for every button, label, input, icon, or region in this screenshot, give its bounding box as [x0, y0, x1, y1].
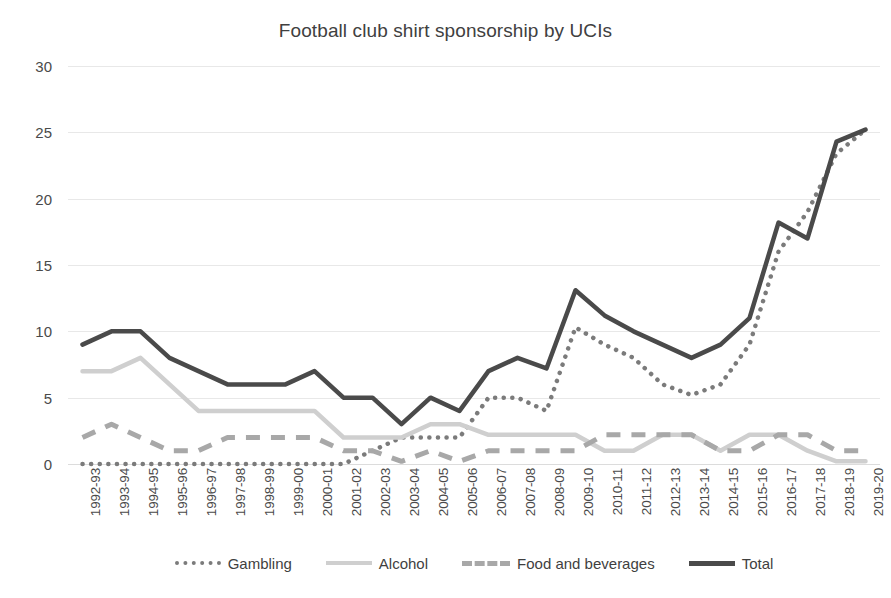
x-axis-tick-label: 2008-09 — [552, 468, 567, 516]
y-axis-tick-label: 30 — [35, 58, 52, 75]
chart-title: Football club shirt sponsorship by UCIs — [0, 20, 891, 42]
x-axis-tick-label: 2017-18 — [813, 468, 828, 516]
y-axis-tick-label: 10 — [35, 323, 52, 340]
legend-label: Total — [742, 555, 774, 572]
x-axis-tick-label: 2015-16 — [755, 468, 770, 516]
legend-label: Gambling — [228, 555, 292, 572]
x-axis-tick-label: 2014-15 — [726, 468, 741, 516]
x-axis-tick-label: 1995-96 — [175, 468, 190, 516]
x-axis-tick-label: 2000-01 — [320, 468, 335, 516]
chart-legend: GamblingAlcoholFood and beveragesTotal — [68, 548, 880, 578]
x-axis-tick-label: 2013-14 — [697, 468, 712, 516]
legend-swatch-icon — [175, 561, 221, 565]
x-axis-tick-label: 1992-93 — [88, 468, 103, 516]
series-line-total — [83, 130, 866, 425]
y-axis-tick-label: 25 — [35, 124, 52, 141]
x-axis-tick-label: 2006-07 — [494, 468, 509, 516]
x-axis-tick-label: 1997-98 — [233, 468, 248, 516]
legend-item-total[interactable]: Total — [689, 555, 774, 572]
x-axis-tick-label: 2018-19 — [842, 468, 857, 516]
x-axis-tick-label: 1999-00 — [291, 468, 306, 516]
series-line-gambling — [83, 130, 866, 464]
y-axis-tick-label: 5 — [44, 389, 52, 406]
legend-item-gambling[interactable]: Gambling — [175, 555, 292, 572]
y-axis-tick-label: 20 — [35, 190, 52, 207]
x-axis-tick-label: 2016-17 — [784, 468, 799, 516]
legend-label: Food and beverages — [517, 555, 655, 572]
x-axis-tick-label: 2010-11 — [610, 468, 625, 515]
data-series-layer — [68, 66, 880, 464]
x-axis-tick-label: 2009-10 — [581, 468, 596, 516]
x-axis-tick-label: 2007-08 — [523, 468, 538, 516]
x-axis-tick-label: 2004-05 — [436, 468, 451, 516]
gridline — [68, 464, 880, 465]
y-axis: 051015202530 — [0, 66, 60, 464]
legend-item-food-and-beverages[interactable]: Food and beverages — [462, 555, 655, 572]
y-axis-tick-label: 15 — [35, 257, 52, 274]
x-axis-tick-label: 2012-13 — [668, 468, 683, 516]
legend-swatch-icon — [462, 561, 510, 566]
x-axis-tick-label: 2003-04 — [407, 468, 422, 516]
x-axis-tick-label: 2019-20 — [871, 468, 886, 516]
x-axis: 1992-931993-941994-951995-961996-971997-… — [68, 468, 880, 542]
chart-container: Football club shirt sponsorship by UCIs … — [0, 0, 891, 598]
x-axis-tick-label: 1996-97 — [204, 468, 219, 516]
x-axis-tick-label: 1993-94 — [117, 468, 132, 516]
y-axis-tick-label: 0 — [44, 456, 52, 473]
x-axis-tick-label: 1994-95 — [146, 468, 161, 516]
plot-area — [68, 66, 880, 464]
x-axis-tick-label: 2011-12 — [639, 468, 654, 515]
legend-item-alcohol[interactable]: Alcohol — [326, 555, 428, 572]
legend-swatch-icon — [326, 561, 372, 565]
x-axis-tick-label: 2002-03 — [378, 468, 393, 516]
x-axis-tick-label: 1998-99 — [262, 468, 277, 516]
legend-swatch-icon — [689, 561, 735, 566]
x-axis-tick-label: 2001-02 — [349, 468, 364, 516]
x-axis-tick-label: 2005-06 — [465, 468, 480, 516]
legend-label: Alcohol — [379, 555, 428, 572]
